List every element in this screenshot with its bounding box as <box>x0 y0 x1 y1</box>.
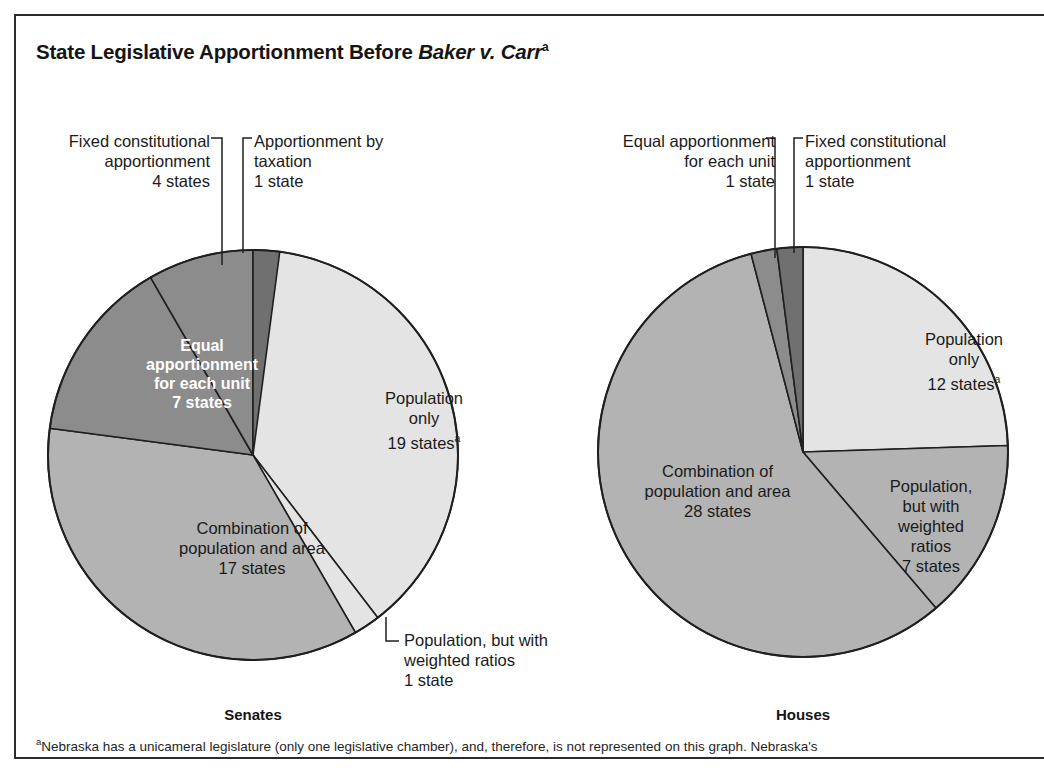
slice-label-houses-population-only: Populationonly12 statesa <box>889 329 1039 394</box>
slice-label-line: Fixed constitutional <box>25 131 210 151</box>
slice-label-line: Combination of <box>610 461 825 481</box>
slice-label-senates-population-weighted-ratios: Population, but withweighted ratios1 sta… <box>404 630 604 690</box>
figure-footnote: aNebraska has a unicameral legislature (… <box>36 733 1006 755</box>
leader-line-senates-population-weighted-ratios <box>386 617 399 641</box>
slice-label-houses-population-weighted-ratios: Population,but withweightedratios7 state… <box>866 476 996 576</box>
slice-label-senates-population-only: Populationonly19 statesa <box>349 388 499 453</box>
slice-label-line: 7 states <box>866 556 996 576</box>
slice-label-line: apportionment <box>25 151 210 171</box>
slice-label-line: Equal <box>122 336 282 355</box>
slice-label-line: Equal apportionment <box>580 131 775 151</box>
slice-label-line: 12 statesa <box>889 369 1039 394</box>
slice-label-line: 1 state <box>805 171 1000 191</box>
slice-label-line: ratios <box>866 536 996 556</box>
slice-label-line: Combination of <box>147 518 357 538</box>
slice-label-senates-combination-population-area: Combination ofpopulation and area17 stat… <box>147 518 357 578</box>
slice-label-senates-fixed-constitutional-apportionment: Fixed constitutionalapportionment4 state… <box>25 131 210 191</box>
slice-label-line: population and area <box>147 538 357 558</box>
slice-label-line: 17 states <box>147 558 357 578</box>
slice-label-senates-apportionment-by-taxation: Apportionment bytaxation1 state <box>254 131 439 191</box>
slice-label-line: weighted ratios <box>404 650 604 670</box>
slice-label-line: 1 state <box>254 171 439 191</box>
slice-label-line: for each unit <box>580 151 775 171</box>
chart-caption-senates: Senates <box>163 706 343 723</box>
slice-label-line: taxation <box>254 151 439 171</box>
slice-label-line: only <box>349 408 499 428</box>
slice-label-line: weighted <box>866 516 996 536</box>
slice-label-line: Population, but with <box>404 630 604 650</box>
slice-label-line: 28 states <box>610 501 825 521</box>
slice-label-line: 7 states <box>122 393 282 412</box>
pie-houses <box>598 138 1008 657</box>
slice-label-houses-combination-population-area: Combination ofpopulation and area28 stat… <box>610 461 825 521</box>
footnote-text: Nebraska has a unicameral legislature (o… <box>41 739 817 754</box>
leader-line-senates-apportionment-by-taxation <box>243 138 252 253</box>
slice-label-line: for each unit <box>122 374 282 393</box>
slice-label-line: apportionment <box>805 151 1000 171</box>
leader-line-houses-fixed-constitutional-apportionment <box>794 138 803 253</box>
slice-label-line: population and area <box>610 481 825 501</box>
slice-label-line: Population, <box>866 476 996 496</box>
slice-label-line: but with <box>866 496 996 516</box>
slice-label-line: 1 state <box>580 171 775 191</box>
slice-label-line: Population <box>349 388 499 408</box>
slice-label-line: Population <box>889 329 1039 349</box>
slice-label-line: apportionment <box>122 355 282 374</box>
slice-label-line: Fixed constitutional <box>805 131 1000 151</box>
slice-label-senates-equal-apportionment-each-unit: Equalapportionmentfor each unit7 states <box>122 336 282 412</box>
chart-caption-houses: Houses <box>713 706 893 723</box>
slice-label-line: only <box>889 349 1039 369</box>
slice-label-line: 4 states <box>25 171 210 191</box>
slice-label-houses-equal-apportionment-each-unit: Equal apportionmentfor each unit1 state <box>580 131 775 191</box>
slice-label-footnote-marker: a <box>995 373 1001 385</box>
leader-line-senates-fixed-constitutional-apportionment <box>211 138 222 265</box>
slice-label-line: 1 state <box>404 670 604 690</box>
slice-label-line: 19 statesa <box>349 428 499 453</box>
slice-label-houses-fixed-constitutional-apportionment: Fixed constitutionalapportionment1 state <box>805 131 1000 191</box>
slice-label-line: Apportionment by <box>254 131 439 151</box>
slice-label-footnote-marker: a <box>455 432 461 444</box>
